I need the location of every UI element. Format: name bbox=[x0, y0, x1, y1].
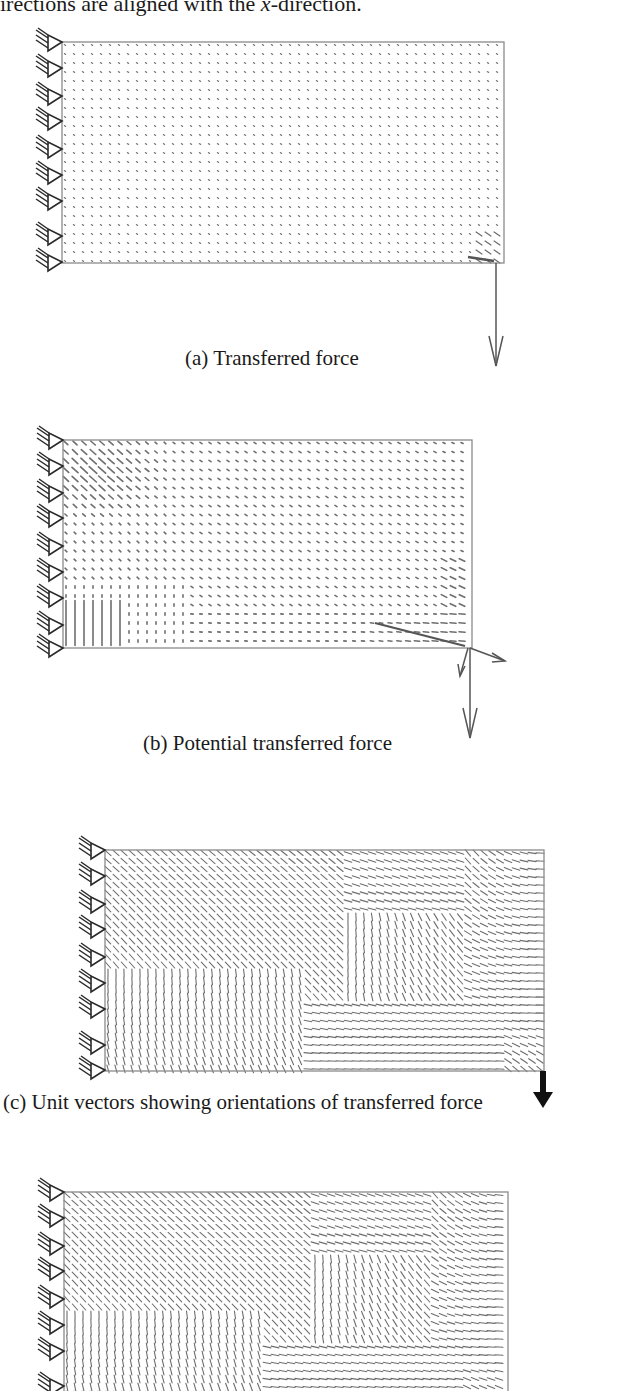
caption-figure-c: (c) Unit vectors showing orientations of… bbox=[3, 1090, 483, 1115]
vector-field bbox=[64, 1192, 503, 1391]
fixed-support-icon bbox=[38, 1178, 64, 1201]
figure-d-unit-vectors bbox=[0, 0, 629, 1391]
fixed-support-icon bbox=[38, 1204, 64, 1227]
fixed-support-icon bbox=[38, 1311, 64, 1334]
fixed-support-icon bbox=[38, 1285, 64, 1308]
fixed-support-icon bbox=[38, 1232, 64, 1255]
fixed-support-icon bbox=[38, 1257, 64, 1280]
caption-figure-b: (b) Potential transferred force bbox=[143, 731, 392, 756]
fixed-support-icon bbox=[38, 1337, 64, 1360]
caption-figure-a: (a) Transferred force bbox=[185, 346, 359, 371]
plate-d bbox=[38, 1178, 508, 1391]
fixed-support-icon bbox=[38, 1372, 64, 1391]
